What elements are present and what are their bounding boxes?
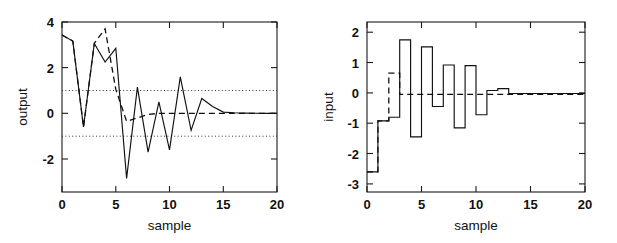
output-x-ticklabel-15: 15 [216, 197, 230, 212]
output-x-ticklabel-5: 5 [112, 197, 119, 212]
input-y-ticklabel-neg1: -1 [347, 116, 359, 131]
output-y-ticklabel-0: 0 [47, 106, 54, 121]
output-y-ticklabel-4: 4 [47, 15, 55, 30]
input-x-ticklabel-10: 10 [469, 197, 483, 212]
input-y-axis-label: input [321, 92, 336, 122]
output-x-ticklabel-10: 10 [162, 197, 176, 212]
output-x-ticklabel-20: 20 [270, 197, 284, 212]
input-x-ticklabel-20: 20 [578, 197, 592, 212]
input-x-ticklabel-5: 5 [418, 197, 425, 212]
input-y-ticklabel-neg3: -3 [347, 177, 359, 192]
figure-canvas: 4 2 0 -2 0 5 10 15 20 sample output [0, 0, 617, 243]
input-panel: 2 1 0 -1 -2 -3 0 5 10 15 20 sample input [309, 0, 617, 243]
output-plot-svg: 4 2 0 -2 0 5 10 15 20 sample output [0, 0, 308, 243]
input-plot-svg: 2 1 0 -1 -2 -3 0 5 10 15 20 sample input [309, 0, 617, 243]
input-y-ticklabel-1: 1 [352, 56, 359, 71]
output-x-axis-label: sample [148, 218, 192, 233]
input-x-axis-label: sample [454, 218, 498, 233]
output-solid-series [62, 35, 277, 178]
output-x-ticklabel-0: 0 [58, 197, 65, 212]
input-x-ticklabel-15: 15 [523, 197, 537, 212]
input-solid-series [367, 40, 585, 172]
output-y-axis-label: output [15, 88, 30, 126]
input-y-ticklabel-0: 0 [352, 86, 359, 101]
output-y-ticklabel-2: 2 [47, 61, 54, 76]
output-y-ticklabel-neg2: -2 [42, 152, 54, 167]
input-y-ticklabel-neg2: -2 [347, 147, 359, 162]
output-panel: 4 2 0 -2 0 5 10 15 20 sample output [0, 0, 308, 243]
input-y-ticklabel-2: 2 [352, 25, 359, 40]
input-x-ticklabel-0: 0 [363, 197, 370, 212]
